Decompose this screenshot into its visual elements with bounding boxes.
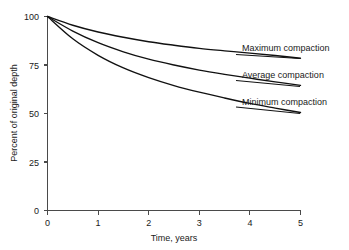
chart-plot-area: 100 75 50 25 0 0 1 2 3 4 5 Time, years P… [0,0,349,250]
x-tick-label-4: 4 [247,218,252,228]
y-tick-label-50: 50 [29,109,39,119]
y-tick-label-25: 25 [29,158,39,168]
y-tick-label-100: 100 [24,12,39,22]
y-tick-label-0: 0 [34,206,39,216]
series-label-average: Average compaction [242,70,324,80]
x-axis-title: Time, years [151,233,198,243]
x-tick-label-2: 2 [146,218,151,228]
x-tick-label-1: 1 [96,218,101,228]
y-axis-title: Percent of original depth [9,64,19,162]
series-label-maximum: Maximum compaction [242,43,330,53]
x-axis-ticks [48,211,301,216]
y-axis-ticks [44,17,48,211]
x-tick-label-5: 5 [298,218,303,228]
series-label-minimum: Minimum compaction [242,97,327,107]
x-tick-label-0: 0 [45,218,50,228]
y-tick-label-75: 75 [29,61,39,71]
x-tick-label-3: 3 [197,218,202,228]
compaction-chart: 100 75 50 25 0 0 1 2 3 4 5 Time, years P… [0,0,349,250]
